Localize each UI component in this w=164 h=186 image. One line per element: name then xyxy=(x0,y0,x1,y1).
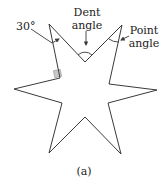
point-angle-label-line2: angle xyxy=(129,37,160,50)
point-angle-label-line1: Point xyxy=(130,24,159,37)
dent-angle-label-line2: angle xyxy=(72,19,103,32)
point-angle-arc xyxy=(109,39,119,42)
right-angle-marker xyxy=(53,69,61,77)
thirty-degree-arrow xyxy=(52,39,59,43)
thirty-degree-label: 30° xyxy=(16,20,36,33)
star-diagram: 30° Dent angle Point angle (a) xyxy=(0,0,164,186)
figure-caption: (a) xyxy=(76,165,91,178)
six-point-star-figure: 30° Dent angle Point angle (a) xyxy=(0,0,164,186)
dent-angle-arc xyxy=(78,52,92,55)
dent-angle-label-line1: Dent xyxy=(74,6,101,19)
